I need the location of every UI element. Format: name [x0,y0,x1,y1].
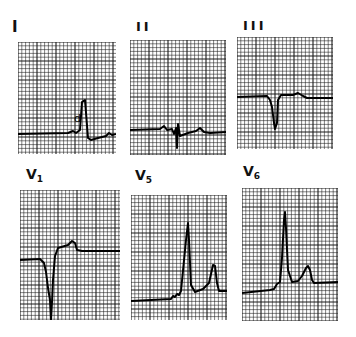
lead-label-text: V [26,166,37,182]
ecg-panel-iii [237,37,333,149]
lead-label-subscript: 6 [254,171,260,181]
lead-label-subscript: 1 [37,174,43,184]
ecg-grid [130,40,226,155]
ecg-grid [20,190,120,320]
ecg-trace-iii [237,93,333,129]
ecg-trace-v5 [131,223,227,301]
ecg-grid [242,188,338,321]
ecg-grid: d [18,42,116,154]
ecg-panel-v1 [20,190,120,320]
ecg-panel-ii [130,40,226,155]
lead-label-text: V [135,167,146,183]
ecg-grid [237,37,333,149]
lead-label-ii: II [136,20,152,33]
lead-label-v6: V6 [243,164,260,178]
lead-label-v5: V5 [135,168,152,182]
lead-label-subscript: 5 [146,175,152,185]
lead-label-i: I [12,20,21,35]
lead-label-v1: V1 [26,167,43,181]
ecg-panel-i: d [18,42,116,154]
lead-label-iii: III [243,19,267,32]
annotation-mark: d [74,112,81,125]
lead-label-text: III [243,18,267,33]
ecg-grid [131,195,227,320]
lead-label-text: II [136,19,152,34]
lead-label-text: V [243,163,254,179]
lead-label-text: I [12,18,21,36]
ecg-panel-v6 [242,188,338,321]
ecg-panel-v5 [131,195,227,320]
ecg-trace-i [18,100,116,140]
